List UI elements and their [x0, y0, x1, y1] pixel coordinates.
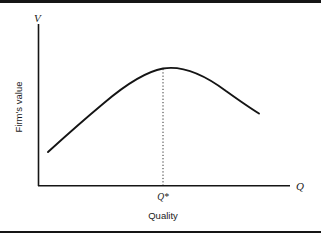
chart-canvas: V Q Q* Firm's value Quality [0, 0, 321, 240]
x-axis-title: Quality [148, 210, 178, 221]
optimum-tick-label: Q* [157, 192, 169, 202]
figure-root: V Q Q* Firm's value Quality [0, 0, 321, 240]
x-axis-symbol: Q [296, 180, 304, 192]
firm-value-curve [48, 68, 259, 152]
y-axis-title: Firm's value [13, 82, 24, 133]
bottom-border-rule [0, 231, 321, 233]
y-axis-symbol: V [34, 12, 42, 24]
